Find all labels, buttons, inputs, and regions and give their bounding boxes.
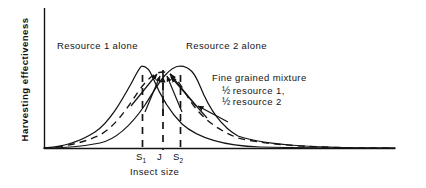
annotation-resource-1: Resource 1 alone: [57, 40, 138, 51]
x-axis-label: Insect size: [130, 166, 179, 177]
xtick-label-s1: S1: [136, 151, 146, 164]
xtick-label-j: J: [157, 151, 162, 162]
annotation-resource-2: Resource 2 alone: [186, 40, 267, 51]
curve-fine-grained-mixture: [44, 72, 392, 148]
mixture-leader-arrow: [198, 106, 228, 122]
xtick-label-s2: S2: [173, 151, 183, 164]
fraction-half-1: ½: [222, 85, 231, 96]
plot-canvas: [0, 0, 426, 188]
annotation-mixture-line-1-text: resource 1,: [233, 85, 285, 96]
xtick-s1-subscript: 1: [143, 157, 147, 164]
annotation-mixture-title: Fine grained mixture: [212, 72, 307, 83]
annotation-mixture-line-1: ½resource 1,: [222, 85, 285, 96]
annotation-mixture-line-2: ½resource 2: [222, 96, 282, 107]
annotation-mixture-line-2-text: resource 2: [233, 96, 282, 107]
figure-harvesting-effectiveness: Harvesting effectiveness Resource 1 alon…: [0, 0, 426, 188]
fraction-half-2: ½: [222, 96, 231, 107]
y-axis-label: Harvesting effectiveness: [19, 10, 30, 150]
xtick-s2-subscript: 2: [180, 157, 184, 164]
